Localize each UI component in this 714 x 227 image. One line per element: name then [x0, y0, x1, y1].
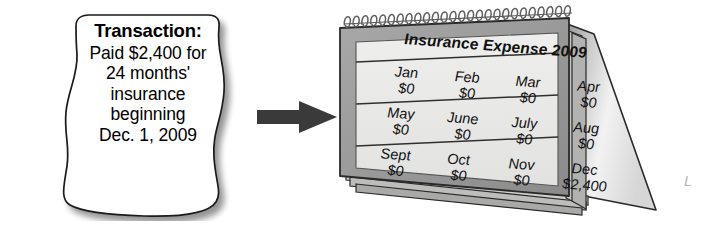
spiral-coil: [547, 7, 553, 17]
spiral-coil: [485, 10, 491, 20]
spiral-coil: [450, 11, 456, 21]
spiral-coil: [353, 16, 359, 26]
spiral-coil: [362, 16, 368, 26]
spiral-coil: [415, 13, 421, 23]
arrow-shape: [257, 101, 337, 133]
spiral-coil: [371, 15, 377, 25]
calendar-illustration: [326, 0, 714, 227]
spiral-coil: [476, 10, 482, 20]
note-line-5: Dec. 1, 2009: [62, 125, 234, 145]
spiral-coil: [494, 9, 500, 19]
spiral-coil: [379, 15, 385, 25]
note-line-2: 24 months': [62, 63, 234, 83]
spiral-coil: [467, 11, 473, 21]
spiral-coil: [555, 6, 561, 16]
note-line-4: beginning: [62, 104, 234, 124]
spiral-coil: [423, 13, 429, 23]
calendar-card: [340, 18, 569, 196]
cropped-margin-glyph: L: [684, 172, 692, 189]
spiral-coil: [520, 8, 526, 18]
spiral-coil: [388, 15, 394, 25]
spiral-coil: [529, 8, 535, 18]
note-line-3: insurance: [62, 84, 234, 104]
spiral-coil: [432, 12, 438, 22]
transaction-note: Transaction: Paid $2,400 for 24 months' …: [40, 6, 255, 221]
note-text-block: Transaction: Paid $2,400 for 24 months' …: [62, 20, 234, 145]
spiral-coil: [511, 8, 517, 18]
spiral-coil: [344, 17, 350, 27]
figure-canvas: Transaction: Paid $2,400 for 24 months' …: [0, 0, 714, 227]
spiral-coil: [441, 12, 447, 22]
note-title: Transaction:: [62, 20, 234, 42]
spiral-coil: [564, 6, 570, 16]
desk-calendar: Insurance Expense 2009 Jan $0 Feb $0 Mar…: [326, 0, 714, 227]
spiral-coil: [406, 14, 412, 24]
spiral-coil: [503, 9, 509, 19]
spiral-coil: [538, 7, 544, 17]
spiral-coil: [397, 14, 403, 24]
spiral-coil: [459, 11, 465, 21]
note-line-1: Paid $2,400 for: [62, 43, 234, 63]
